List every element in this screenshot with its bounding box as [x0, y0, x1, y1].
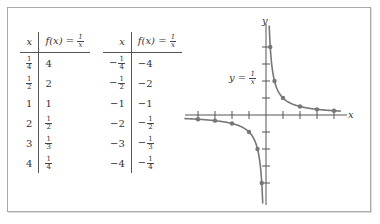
- data-point: [315, 107, 319, 111]
- data-point: [213, 118, 217, 122]
- fraction: 1x: [249, 71, 255, 86]
- curve-label-lhs: y =: [229, 72, 246, 83]
- data-point: [281, 96, 285, 100]
- data-point: [255, 147, 259, 151]
- data-point: [247, 130, 251, 134]
- data-point: [272, 79, 276, 83]
- reciprocal-function-graph: [0, 0, 380, 224]
- axes: [185, 24, 347, 205]
- data-point: [268, 45, 272, 49]
- data-point: [298, 104, 302, 108]
- data-point: [230, 121, 234, 125]
- data-point: [196, 117, 200, 121]
- curve-positive-branch: [269, 26, 341, 112]
- data-point: [260, 181, 264, 185]
- curve-label: y = 1x: [229, 71, 256, 86]
- data-point: [332, 109, 336, 113]
- y-axis-label: y: [262, 15, 268, 26]
- x-axis-label: x: [348, 109, 354, 120]
